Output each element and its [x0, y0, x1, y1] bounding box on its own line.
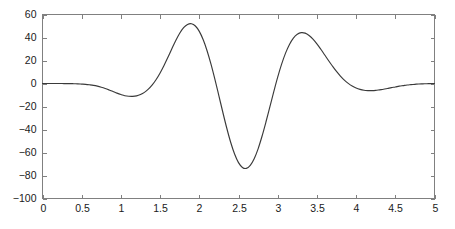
y-tick-label: −100	[13, 192, 37, 204]
y-tick-label: 20	[25, 54, 37, 66]
y-tick-label: −60	[19, 146, 37, 158]
x-tick-label: 3.5	[310, 202, 325, 214]
x-tick-label: 4.5	[388, 202, 403, 214]
y-tick-label: −20	[19, 100, 37, 112]
x-tick-label: 5	[433, 202, 439, 214]
x-tick-label: 1	[119, 202, 125, 214]
x-tick-label: 1.5	[153, 202, 168, 214]
x-tick-label: 0	[41, 202, 47, 214]
series-line-signal	[43, 24, 435, 169]
y-tick-label: 40	[25, 31, 37, 43]
axes-frame	[43, 15, 435, 199]
x-tick-label: 2.5	[232, 202, 247, 214]
x-tick-label: 0.5	[75, 202, 90, 214]
plot-box	[43, 15, 435, 199]
x-axis-tick-labels: 00.511.522.533.544.55	[41, 202, 439, 214]
y-tick-label: 0	[31, 77, 37, 89]
y-tick-label: −40	[19, 123, 37, 135]
y-tick-label: −80	[19, 169, 37, 181]
data-series-group	[43, 24, 435, 169]
x-tick-label: 4	[354, 202, 360, 214]
y-axis-ticks	[43, 16, 435, 200]
x-axis-ticks	[44, 15, 436, 199]
line-chart: 6040200−20−40−60−80−100 00.511.522.533.5…	[0, 0, 455, 229]
x-tick-label: 3	[276, 202, 282, 214]
y-axis-tick-labels: 6040200−20−40−60−80−100	[13, 8, 37, 204]
y-tick-label: 60	[25, 8, 37, 20]
figure-container: 6040200−20−40−60−80−100 00.511.522.533.5…	[0, 0, 455, 229]
x-tick-label: 2	[197, 202, 203, 214]
